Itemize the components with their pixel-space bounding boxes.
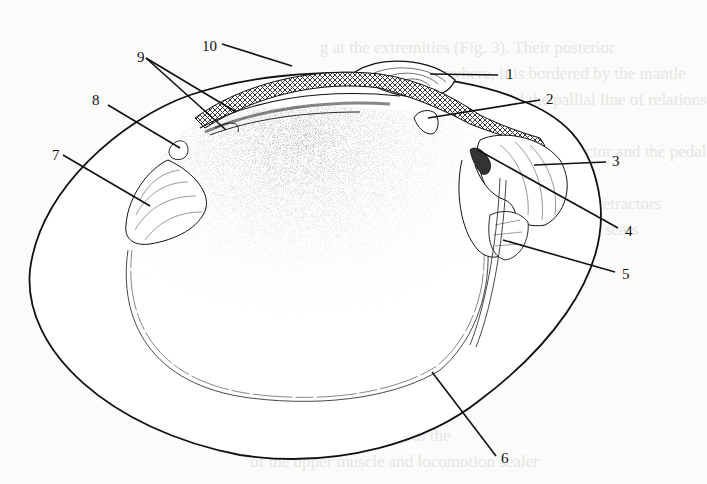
callout-number: 2 — [546, 91, 554, 107]
callout-number: 7 — [52, 147, 60, 163]
callout-number: 9 — [137, 49, 145, 65]
callout-10: 10 — [202, 38, 292, 66]
callout-number: 6 — [501, 450, 509, 466]
callout-number: 10 — [202, 38, 217, 54]
callout-number: 4 — [625, 223, 633, 239]
leader-line — [430, 74, 498, 75]
callout-number: 5 — [622, 266, 630, 282]
leader-line — [222, 44, 292, 66]
callout-number: 1 — [506, 66, 514, 82]
callout-number: 8 — [92, 92, 100, 108]
callout-number: 3 — [612, 153, 620, 169]
